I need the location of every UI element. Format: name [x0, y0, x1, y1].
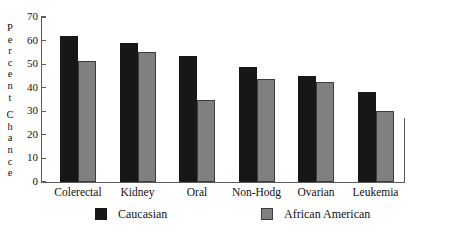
black-square-swatch-icon	[95, 208, 107, 220]
y-axis-tick-label: 30	[12, 105, 38, 116]
x-axis-category-label: Leukemia	[331, 186, 421, 199]
legend-item-caucasian: Caucasian	[95, 208, 167, 220]
bar-african-american	[316, 82, 334, 182]
bar-group	[60, 17, 96, 182]
bar-group	[298, 17, 334, 182]
legend-item-african-american: African American	[261, 208, 370, 220]
y-axis-tick-label: 10	[12, 152, 38, 163]
legend-label: African American	[284, 208, 370, 220]
bar-caucasian	[298, 76, 316, 182]
bar-african-american	[257, 79, 275, 182]
bar-group	[120, 17, 156, 182]
y-axis-title-letter: t	[2, 92, 18, 104]
bar-group	[239, 17, 275, 182]
bar-chart: PercentChance 010203040506070 Colerectal…	[0, 0, 451, 236]
bar-caucasian	[60, 36, 78, 182]
bar-caucasian	[358, 92, 376, 182]
bar-group	[179, 17, 215, 182]
x-axis-line	[41, 182, 405, 183]
gray-square-swatch-icon	[261, 208, 273, 220]
bar-african-american	[78, 61, 96, 182]
bar-caucasian	[120, 43, 138, 182]
y-axis-tick-label: 70	[12, 11, 38, 22]
y-axis-title-letter: e	[2, 68, 18, 80]
y-axis-title-letter: P	[2, 22, 18, 34]
chart-legend: Caucasian African American	[0, 208, 451, 228]
y-axis-tick-label: 60	[12, 35, 38, 46]
bar-african-american	[376, 111, 394, 182]
bar-african-american	[197, 100, 215, 183]
bar-group	[358, 17, 394, 182]
legend-label: Caucasian	[118, 208, 167, 220]
y-axis-tick-label: 20	[12, 129, 38, 140]
y-axis-title-letter: r	[2, 45, 18, 57]
bar-caucasian	[179, 56, 197, 182]
bar-caucasian	[239, 67, 257, 183]
y-axis-tick-label: 40	[12, 82, 38, 93]
bar-african-american	[138, 52, 156, 182]
plot-area	[41, 17, 405, 182]
y-axis-tick-label: 50	[12, 58, 38, 69]
